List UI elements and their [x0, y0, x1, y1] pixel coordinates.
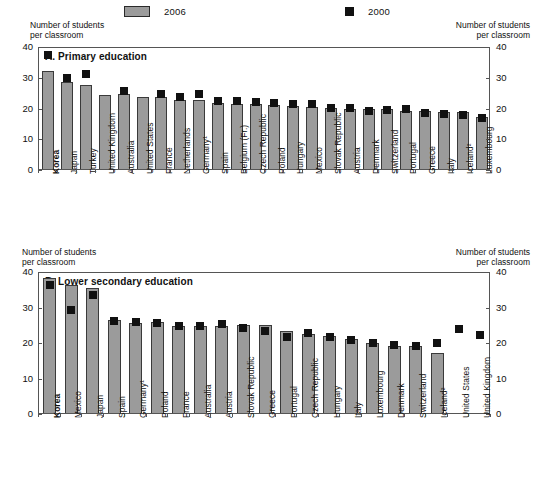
x-tick-mark: [425, 414, 426, 417]
x-tick-mark: [151, 170, 152, 173]
y-tick-label: 20: [496, 337, 518, 348]
data-marker: [270, 99, 278, 107]
x-tick-mark: [103, 414, 104, 417]
x-axis-label: Germany¹: [138, 380, 148, 418]
y-tick-label: 40: [496, 41, 518, 52]
y-tick-label: 0: [11, 164, 33, 175]
data-marker: [110, 317, 118, 325]
x-axis-label: Switzerland: [390, 130, 400, 174]
axis-caption-right-b: Number of students per classroom: [456, 247, 530, 267]
x-axis-label: Luxembourg: [375, 370, 385, 418]
x-axis-label: Denmark: [396, 383, 406, 418]
data-marker: [304, 329, 312, 337]
x-tick-mark: [38, 414, 39, 417]
data-marker: [383, 106, 391, 114]
data-marker: [46, 281, 54, 289]
x-tick-mark: [382, 414, 383, 417]
data-marker: [89, 291, 97, 299]
data-marker: [176, 93, 184, 101]
x-axis-label: Denmark: [371, 139, 381, 174]
x-tick-mark: [95, 170, 96, 173]
x-tick-mark: [318, 414, 319, 417]
x-tick-mark: [189, 414, 190, 417]
y-tick-label: 10: [496, 373, 518, 384]
y-tick-mark: [38, 47, 42, 48]
chart-primary-education: A. Primary education 001010202030304040 …: [38, 47, 490, 170]
data-marker: [326, 333, 334, 341]
x-axis-label: France: [164, 147, 174, 174]
data-marker: [63, 74, 71, 82]
x-tick-mark: [471, 170, 472, 173]
x-tick-mark: [132, 170, 133, 173]
x-tick-mark: [404, 414, 405, 417]
x-tick-mark: [358, 170, 359, 173]
y-tick-mark: [486, 343, 490, 344]
x-axis-label: United Kingdom: [107, 113, 117, 174]
y-tick-mark: [486, 272, 490, 273]
data-marker: [455, 325, 463, 333]
data-marker: [327, 104, 335, 112]
x-tick-mark: [76, 170, 77, 173]
legend-label-2006: 2006: [164, 6, 186, 17]
x-axis-label: Switzerland: [418, 374, 428, 418]
x-tick-mark: [208, 170, 209, 173]
x-axis-label: Czech Republic: [310, 358, 320, 418]
data-marker: [196, 322, 204, 330]
x-tick-mark: [447, 414, 448, 417]
black-square-swatch-icon: [345, 7, 354, 16]
y-tick-mark: [486, 78, 490, 79]
y-tick-mark: [38, 139, 42, 140]
y-tick-mark: [38, 109, 42, 110]
chart-legend: 2006 2000: [0, 0, 536, 22]
data-marker: [218, 320, 226, 328]
y-tick-label: 40: [11, 41, 33, 52]
x-tick-mark: [167, 414, 168, 417]
data-marker: [239, 324, 247, 332]
x-tick-mark: [490, 170, 491, 173]
x-tick-mark: [60, 414, 61, 417]
y-tick-label: 20: [11, 337, 33, 348]
x-axis-label: Turkey: [88, 148, 98, 174]
y-tick-label: 20: [11, 103, 33, 114]
y-tick-mark: [38, 272, 42, 273]
x-tick-mark: [468, 414, 469, 417]
y-tick-mark: [38, 343, 42, 344]
legend-item-2006: 2006: [124, 6, 186, 17]
x-tick-mark: [452, 170, 453, 173]
x-tick-mark: [113, 170, 114, 173]
x-tick-mark: [232, 414, 233, 417]
x-axis-label: United States: [145, 122, 155, 174]
y-tick-mark: [486, 109, 490, 110]
x-axis-label: Netherlands: [182, 128, 192, 174]
x-axis-label: Spain: [220, 152, 230, 174]
x-axis-label: Greece: [427, 146, 437, 174]
data-marker: [157, 90, 165, 98]
data-marker: [195, 90, 203, 98]
legend-label-2000: 2000: [368, 6, 390, 17]
data-marker: [390, 341, 398, 349]
data-marker: [153, 319, 161, 327]
data-marker: [478, 114, 486, 122]
y-tick-label: 30: [11, 72, 33, 83]
x-axis-label: Poland: [277, 147, 287, 174]
data-marker: [369, 339, 377, 347]
y-tick-label: 30: [496, 302, 518, 313]
y-tick-label: 0: [11, 408, 33, 419]
data-marker: [433, 339, 441, 347]
data-marker: [421, 109, 429, 117]
data-marker: [132, 318, 140, 326]
x-axis-label: Austria: [352, 147, 362, 174]
x-axis-label: Slovak Republic: [246, 356, 256, 418]
y-tick-label: 40: [11, 266, 33, 277]
x-tick-mark: [434, 170, 435, 173]
x-tick-mark: [490, 414, 491, 417]
y-tick-mark: [38, 78, 42, 79]
data-marker: [283, 333, 291, 341]
x-tick-mark: [57, 170, 58, 173]
x-axis-label: Germany¹: [201, 136, 211, 174]
x-tick-mark: [210, 414, 211, 417]
x-tick-mark: [283, 170, 284, 173]
x-tick-mark: [245, 170, 246, 173]
y-tick-label: 10: [11, 373, 33, 384]
x-tick-mark: [339, 414, 340, 417]
